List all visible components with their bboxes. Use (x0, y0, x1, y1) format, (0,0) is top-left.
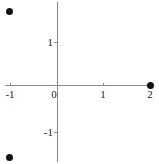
scatter-plot: -1 0 1 2 1 -1 (0, 0, 159, 164)
x-tick-label-0: 0 (46, 89, 62, 100)
data-point (147, 82, 154, 89)
y-axis-line (57, 2, 58, 162)
x-tick-label-2: 2 (142, 89, 158, 100)
x-tick-label-1: 1 (95, 89, 111, 100)
x-tick-label-neg1: -1 (2, 89, 18, 100)
y-axis-tick (54, 42, 57, 43)
y-tick-label-1: 1 (48, 37, 54, 48)
x-axis-tick (103, 83, 104, 86)
x-axis-tick (10, 83, 11, 86)
data-point (6, 154, 13, 161)
y-tick-label-neg1: -1 (44, 127, 53, 138)
y-axis-tick (54, 132, 57, 133)
x-axis-line (5, 85, 151, 86)
data-point (6, 8, 13, 15)
